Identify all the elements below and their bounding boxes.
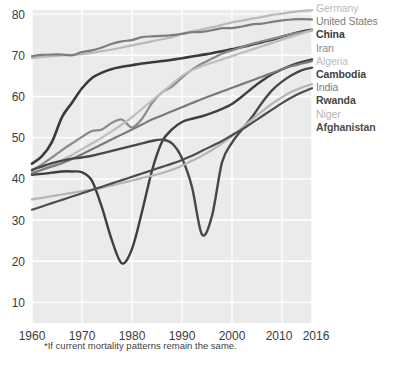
legend-item-united-states[interactable]: United States [316,15,400,28]
y-tick-label: 10 [12,296,26,310]
legend-item-india[interactable]: India [316,81,400,94]
chart-footnote: *If current mortality patterns remain th… [44,340,237,351]
y-tick-label: 70 [12,49,26,63]
y-tick-label: 30 [12,214,26,228]
legend-item-niger[interactable]: Niger [316,108,400,121]
x-tick-label: 1960 [19,329,46,343]
legend-item-germany[interactable]: Germany [316,2,400,15]
plot-background [32,10,312,323]
y-tick-label: 80 [12,8,26,22]
y-tick-label: 40 [12,172,26,186]
x-tick-label: 2010 [266,329,293,343]
y-axis-tick-labels: 1020304050607080 [12,8,26,310]
y-tick-label: 60 [12,90,26,104]
y-tick-label: 50 [12,131,26,145]
chart-legend: GermanyUnited StatesChinaIranAlgeriaCamb… [316,2,400,134]
legend-item-afghanistan[interactable]: Afghanistan [316,121,400,134]
legend-item-iran[interactable]: Iran [316,42,400,55]
life-expectancy-chart: 1020304050607080 19601970198019902000201… [0,0,400,370]
legend-item-algeria[interactable]: Algeria [316,55,400,68]
legend-item-rwanda[interactable]: Rwanda [316,94,400,107]
legend-item-cambodia[interactable]: Cambodia [316,68,400,81]
x-tick-label: 2016 [303,329,330,343]
y-tick-label: 20 [12,255,26,269]
legend-item-china[interactable]: China [316,28,400,41]
